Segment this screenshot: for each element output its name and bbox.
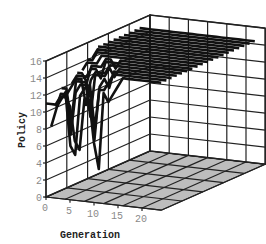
x-tick-label: 20 [135, 214, 147, 225]
y-tick-label: 12 [30, 91, 42, 102]
x-tick-label: 10 [87, 209, 99, 220]
x-tick-label: 5 [66, 206, 72, 217]
y-tick-label: 6 [36, 142, 42, 153]
x-axis-title: Generation [60, 230, 120, 241]
y-tick-label: 14 [30, 74, 42, 85]
x-tick-label: 15 [111, 211, 123, 222]
y-tick-label: 8 [36, 125, 42, 136]
y-tick-label: 16 [30, 57, 42, 68]
x-tick-label: 0 [42, 203, 48, 214]
y-tick-label: 2 [36, 176, 42, 187]
y-tick-label: 10 [30, 108, 42, 119]
policy-3d-chart: 0246810121416 05101520 Policy Generation [0, 0, 266, 244]
y-axis-ticks: 0246810121416 [30, 57, 46, 204]
y-axis-title: Policy [17, 112, 28, 148]
y-tick-label: 4 [36, 159, 42, 170]
y-tick-label: 0 [36, 193, 42, 204]
